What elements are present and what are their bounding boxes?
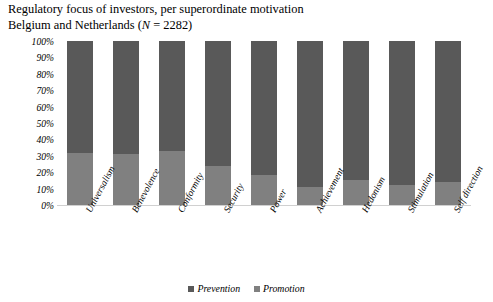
bar-segment-prevention	[297, 41, 323, 187]
legend-swatch-icon	[188, 286, 194, 292]
bar-segment-prevention	[343, 41, 369, 180]
bar-segment-prevention	[389, 41, 415, 185]
bar-universalism	[67, 41, 93, 205]
bar-segment-prevention	[251, 41, 277, 175]
bar-hedonism	[343, 41, 369, 205]
bar-power	[251, 41, 277, 205]
bar-segment-prevention	[67, 41, 93, 153]
chart-title-line1: Regulatory focus of investors, per super…	[8, 2, 304, 16]
y-axis-tick-label: 30%	[36, 150, 54, 161]
y-axis-tick-label: 100%	[32, 36, 54, 47]
legend-label: Promotion	[263, 283, 305, 294]
y-axis-tick-label: 20%	[36, 167, 54, 178]
legend-swatch-icon	[254, 286, 260, 292]
bar-achievement	[297, 41, 323, 205]
y-axis-tick-label: 0%	[41, 200, 54, 211]
bar-segment-prevention	[159, 41, 185, 151]
bar-segment-prevention	[113, 41, 139, 154]
bar-conformity	[159, 41, 185, 205]
y-axis: 100%90%80%70%60%50%40%30%20%10%0%	[18, 41, 54, 205]
y-axis-tick-label: 10%	[36, 183, 54, 194]
chart-title: Regulatory focus of investors, per super…	[8, 2, 408, 33]
y-axis-tick-label: 60%	[36, 101, 54, 112]
x-axis: UniversalismBenevolenceConformitySecurit…	[57, 205, 471, 280]
y-axis-tick-label: 80%	[36, 68, 54, 79]
plot-area	[57, 41, 471, 205]
chart-figure: Regulatory focus of investors, per super…	[0, 0, 493, 302]
y-axis-tick-label: 40%	[36, 134, 54, 145]
bar-security	[205, 41, 231, 205]
y-axis-tick-label: 70%	[36, 85, 54, 96]
legend-item: Prevention	[188, 283, 240, 294]
bar-stimulation	[389, 41, 415, 205]
chart-legend: PreventionPromotion	[0, 283, 493, 294]
legend-item: Promotion	[254, 283, 305, 294]
y-axis-tick-label: 90%	[36, 52, 54, 63]
bar-benevolence	[113, 41, 139, 205]
y-axis-tick-label: 50%	[36, 118, 54, 129]
bar-segment-prevention	[435, 41, 461, 182]
chart-title-line2-post: = 2282)	[150, 18, 192, 32]
legend-label: Prevention	[197, 283, 240, 294]
chart-title-sample-symbol: N	[142, 18, 150, 32]
bar-segment-prevention	[205, 41, 231, 166]
chart-title-line2-pre: Belgium and Netherlands (	[8, 18, 142, 32]
bar-self-direction	[435, 41, 461, 205]
